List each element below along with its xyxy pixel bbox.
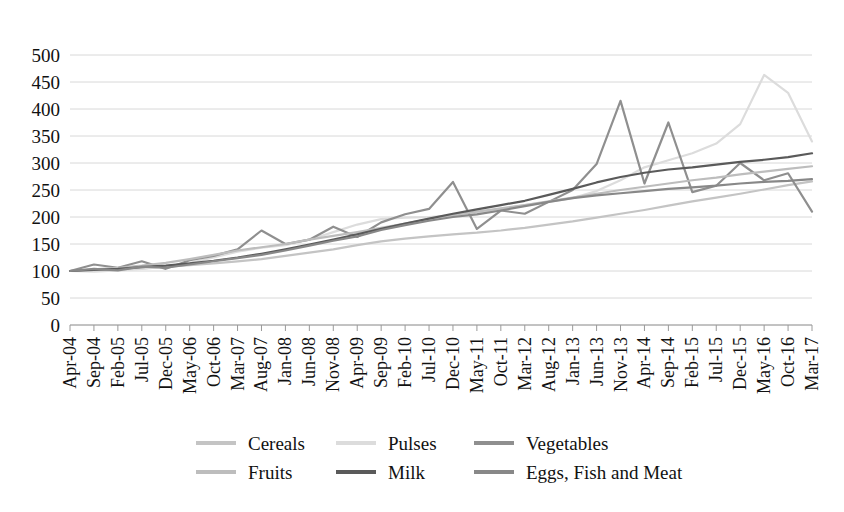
x-axis-tick-label: Oct-06 <box>204 337 224 387</box>
data-series <box>70 75 812 272</box>
x-axis-tick-label: May-16 <box>754 337 774 394</box>
series-line-pulses <box>70 75 812 272</box>
y-axis-tick-labels: 050100150200250300350400450500 <box>32 45 61 336</box>
x-axis-tick-label: May-06 <box>180 337 200 394</box>
x-axis-tick-label: Jul-15 <box>706 337 726 382</box>
y-axis-tick-label: 250 <box>32 180 61 201</box>
x-axis-tick-label: Feb-05 <box>108 337 128 388</box>
x-axis-tick-label: Mar-07 <box>228 337 248 391</box>
x-axis-tick-label: Aug-12 <box>539 337 559 392</box>
y-axis-tick-label: 100 <box>32 261 61 282</box>
x-axis-tick-label: Jul-05 <box>132 337 152 382</box>
legend-label: Fruits <box>248 462 292 483</box>
x-axis-tick-label: Feb-10 <box>395 337 415 388</box>
x-axis-tick-label: Sep-09 <box>371 337 391 388</box>
x-axis-tick-label: Oct-16 <box>778 337 798 387</box>
legend-label: Cereals <box>248 433 305 454</box>
x-axis-tick-label: Nov-08 <box>323 337 343 392</box>
x-axis-tick-label: Aug-07 <box>251 337 271 392</box>
x-axis-tick-label: Apr-09 <box>347 337 367 389</box>
series-line-eggs-fish-and-meat <box>70 179 812 271</box>
x-axis-tick-label: Mar-17 <box>802 337 822 391</box>
legend-label: Milk <box>388 462 425 483</box>
y-axis-tick-label: 50 <box>41 288 60 309</box>
y-axis-tick-label: 0 <box>51 315 61 336</box>
x-axis-tick-labels: Apr-04Sep-04Feb-05Jul-05Dec-05May-06Oct-… <box>60 337 822 394</box>
y-axis-tick-label: 150 <box>32 234 61 255</box>
x-axis-tick-label: Dec-05 <box>156 337 176 390</box>
y-axis-tick-label: 200 <box>32 207 61 228</box>
x-axis-tick-label: Jan-13 <box>563 337 583 385</box>
x-axis-tick-label: Dec-15 <box>730 337 750 390</box>
x-axis-tick-label: Feb-15 <box>682 337 702 388</box>
legend-label: Eggs, Fish and Meat <box>526 462 683 483</box>
y-axis-tick-label: 350 <box>32 126 61 147</box>
y-axis-tick-label: 400 <box>32 99 61 120</box>
x-axis-tick-label: Apr-04 <box>60 337 80 389</box>
x-axis-tick-label: Jun-13 <box>587 337 607 386</box>
y-axis-tick-label: 500 <box>32 45 61 66</box>
chart-container: 050100150200250300350400450500 Apr-04Sep… <box>0 0 844 512</box>
legend-label: Pulses <box>388 433 437 454</box>
legend-label: Vegetables <box>526 433 608 454</box>
x-axis <box>70 325 812 331</box>
x-axis-tick-label: Sep-14 <box>658 337 678 388</box>
line-chart: 050100150200250300350400450500 Apr-04Sep… <box>0 0 844 512</box>
x-axis-tick-label: Apr-14 <box>634 337 654 389</box>
x-axis-tick-label: Mar-12 <box>515 337 535 391</box>
x-axis-tick-label: Jun-08 <box>299 337 319 386</box>
x-axis-tick-label: Jan-08 <box>275 337 295 385</box>
x-axis-tick-label: Oct-11 <box>491 337 511 386</box>
x-axis-tick-label: Jul-10 <box>419 337 439 382</box>
x-axis-tick-label: Sep-04 <box>84 337 104 388</box>
series-line-milk <box>70 153 812 271</box>
x-axis-tick-label: May-11 <box>467 337 487 393</box>
x-axis-tick-label: Nov-13 <box>611 337 631 392</box>
y-axis-tick-label: 450 <box>32 72 61 93</box>
y-axis-tick-label: 300 <box>32 153 61 174</box>
x-axis-tick-label: Dec-10 <box>443 337 463 390</box>
chart-legend: CerealsPulsesVegetablesFruitsMilkEggs, F… <box>196 433 683 483</box>
